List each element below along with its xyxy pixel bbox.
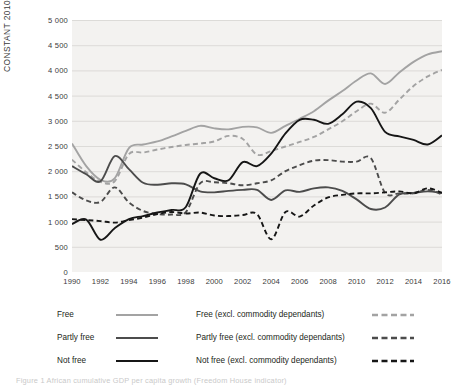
legend-item[interactable]: Partly free (57, 329, 177, 346)
x-axis-tick: 2014 (405, 277, 422, 286)
legend-item[interactable]: Free (57, 306, 177, 323)
legend-item[interactable]: Not free (excl. commodity dependants) (196, 352, 416, 369)
x-axis-tick: 2016 (433, 277, 450, 286)
x-axis-tick: 2012 (376, 277, 393, 286)
x-axis-tick-labels: 1990199219941996199820002002200420062008… (0, 0, 455, 300)
x-axis-tick: 1992 (92, 277, 109, 286)
x-axis-tick: 1994 (120, 277, 137, 286)
chart-legend: FreePartly freeNot freeFree (excl. commo… (0, 306, 455, 370)
x-axis-tick: 2004 (263, 277, 280, 286)
legend-label: Partly free (excl. commodity dependants) (196, 333, 371, 342)
legend-label: Free (excl. commodity dependants) (196, 310, 371, 319)
legend-item[interactable]: Free (excl. commodity dependants) (196, 306, 416, 323)
legend-swatch (371, 357, 415, 365)
legend-swatch (371, 334, 415, 342)
figure-caption: Figure 1 African cumulative GDP per capi… (16, 376, 446, 385)
legend-swatch (115, 357, 159, 365)
legend-swatch (115, 334, 159, 342)
legend-label: Not free (57, 356, 115, 365)
line-chart: CONSTANT 2010 US$ 5 0004 5004 0004 5003 … (0, 0, 455, 300)
x-axis-tick: 2000 (206, 277, 223, 286)
x-axis-tick: 1990 (63, 277, 80, 286)
x-axis-tick: 1998 (177, 277, 194, 286)
x-axis-tick: 2010 (348, 277, 365, 286)
legend-item[interactable]: Partly free (excl. commodity dependants) (196, 329, 416, 346)
legend-label: Not free (excl. commodity dependants) (196, 356, 371, 365)
x-axis-tick: 2002 (234, 277, 251, 286)
legend-label: Free (57, 310, 115, 319)
legend-swatch (115, 311, 159, 319)
figure-container: CONSTANT 2010 US$ 5 0004 5004 0004 5003 … (0, 0, 455, 390)
x-axis-tick: 2008 (319, 277, 336, 286)
x-axis-tick: 2006 (291, 277, 308, 286)
x-axis-tick: 1996 (149, 277, 166, 286)
legend-label: Partly free (57, 333, 115, 342)
legend-swatch (371, 311, 415, 319)
legend-item[interactable]: Not free (57, 352, 177, 369)
